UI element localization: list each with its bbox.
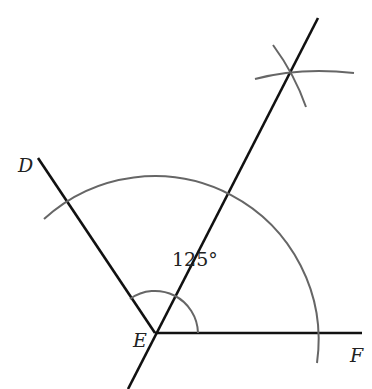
label-D: D (18, 156, 33, 175)
construction-arc-horizontal (255, 71, 354, 79)
diagram-canvas: D E F 125° (0, 0, 372, 389)
construction-svg (0, 0, 372, 389)
label-E: E (133, 331, 147, 350)
angle-label: 125° (172, 250, 218, 269)
ray-ED (38, 158, 155, 333)
label-F: F (350, 346, 363, 365)
